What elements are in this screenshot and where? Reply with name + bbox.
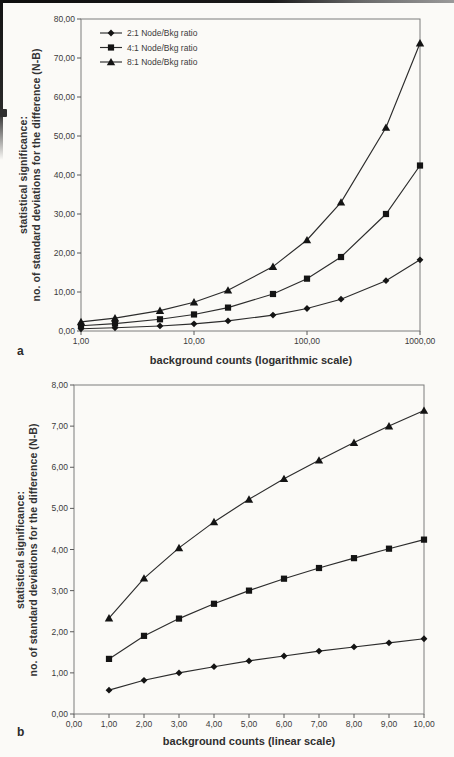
x-tick-label: 3,00: [171, 719, 188, 729]
y-axis-title-line1: statistical significance:: [17, 48, 30, 301]
square-marker: [338, 254, 344, 260]
diamond-marker: [338, 296, 345, 303]
y-tick-label: 40,00: [54, 170, 76, 180]
square-marker: [270, 291, 276, 297]
x-tick-label: 100,00: [294, 336, 320, 346]
triangle-marker: [190, 298, 198, 305]
square-marker: [106, 656, 112, 662]
series-line-triangle: [81, 43, 420, 322]
y-tick-label: 7,00: [51, 421, 68, 431]
triangle-marker: [382, 123, 390, 130]
diamond-marker: [157, 323, 164, 330]
chart-b-linear-scale: 0,001,002,003,004,005,006,007,008,000,00…: [0, 375, 454, 757]
x-tick-label: 1000,00: [405, 336, 436, 346]
series-line-diamond: [81, 260, 420, 329]
diamond-marker: [191, 320, 198, 327]
square-marker: [141, 633, 147, 639]
diamond-marker: [351, 644, 358, 651]
square-marker: [304, 276, 310, 282]
series-line-square: [109, 540, 424, 659]
square-marker: [176, 615, 182, 621]
square-marker: [417, 162, 423, 168]
diamond-marker: [106, 687, 113, 694]
diamond-marker: [383, 277, 390, 284]
x-tick-label: 7,00: [311, 719, 328, 729]
y-tick-label: 5,00: [51, 503, 68, 513]
diamond-marker: [270, 312, 277, 319]
triangle-marker: [224, 286, 232, 293]
y-tick-label: 1,00: [51, 668, 68, 678]
y-tick-label: 3,00: [51, 586, 68, 596]
square-marker: [191, 311, 197, 317]
panel-label-b: b: [17, 725, 24, 739]
panel-label-a: a: [17, 344, 24, 358]
square-marker: [157, 316, 163, 322]
triangle-marker: [315, 456, 323, 463]
triangle-marker: [420, 406, 428, 413]
triangle-marker: [280, 475, 288, 482]
diamond-marker: [421, 635, 428, 642]
square-marker: [386, 546, 392, 552]
x-tick-label: 8,00: [346, 719, 363, 729]
triangle-marker: [210, 518, 218, 525]
y-axis-title-line1: statistical significance:: [14, 423, 27, 676]
square-marker: [108, 44, 114, 50]
y-tick-label: 4,00: [51, 545, 68, 555]
y-tick-label: 70,00: [54, 53, 76, 63]
y-tick-label: 80,00: [54, 14, 76, 24]
y-tick-label: 6,00: [51, 462, 68, 472]
triangle-marker: [350, 438, 358, 445]
chart-a-log-scale: 0,0010,0020,0030,0040,0050,0060,0070,008…: [0, 0, 454, 375]
square-marker: [246, 588, 252, 594]
x-tick-label: 0,00: [66, 719, 83, 729]
square-marker: [281, 576, 287, 582]
y-axis-title-line2: no. of standard deviations for the diffe…: [30, 48, 43, 301]
x-tick-label: 10,00: [183, 336, 205, 346]
scanned-figure-page: 0,0010,0020,0030,0040,0050,0060,0070,008…: [0, 0, 454, 757]
x-tick-label: 1,00: [101, 719, 118, 729]
x-tick-label: 1,00: [73, 336, 90, 346]
y-tick-label: 60,00: [54, 92, 76, 102]
square-marker: [316, 565, 322, 571]
y-tick-label: 0,00: [51, 709, 68, 719]
legend-label: 4:1 Node/Bkg ratio: [127, 43, 198, 53]
square-marker: [383, 211, 389, 217]
diamond-marker: [176, 669, 183, 676]
chart-b-y-axis-title: statistical significance: no. of standar…: [14, 423, 40, 676]
square-marker: [225, 305, 231, 311]
diamond-marker: [246, 658, 253, 665]
chart-a-y-axis-title: statistical significance: no. of standar…: [17, 48, 43, 301]
diamond-marker: [141, 677, 148, 684]
x-tick-label: 2,00: [136, 719, 153, 729]
series-line-triangle: [109, 411, 424, 619]
square-marker: [351, 555, 357, 561]
y-tick-label: 8,00: [51, 380, 68, 390]
chart-b-x-axis-title: background counts (linear scale): [163, 735, 335, 747]
series-line-diamond: [109, 639, 424, 690]
diamond-marker: [211, 663, 218, 670]
x-tick-label: 5,00: [241, 719, 258, 729]
diamond-marker: [281, 653, 288, 660]
y-tick-label: 50,00: [54, 131, 76, 141]
y-tick-label: 30,00: [54, 209, 76, 219]
legend-label: 8:1 Node/Bkg ratio: [127, 57, 198, 67]
x-tick-label: 4,00: [206, 719, 223, 729]
square-marker: [421, 537, 427, 543]
x-tick-label: 9,00: [381, 719, 398, 729]
square-marker: [211, 601, 217, 607]
triangle-marker: [245, 495, 253, 502]
y-axis-title-line2: no. of standard deviations for the diffe…: [27, 423, 40, 676]
triangle-marker: [385, 422, 393, 429]
diamond-marker: [316, 648, 323, 655]
x-tick-label: 6,00: [276, 719, 293, 729]
series-line-square: [81, 166, 420, 326]
x-tick-label: 10,00: [413, 719, 435, 729]
triangle-marker: [175, 544, 183, 551]
legend-label: 2:1 Node/Bkg ratio: [127, 28, 198, 38]
y-tick-label: 10,00: [54, 287, 76, 297]
y-tick-label: 20,00: [54, 248, 76, 258]
diamond-marker: [108, 30, 115, 37]
diamond-marker: [225, 318, 232, 325]
diamond-marker: [417, 256, 424, 263]
diamond-marker: [386, 639, 393, 646]
